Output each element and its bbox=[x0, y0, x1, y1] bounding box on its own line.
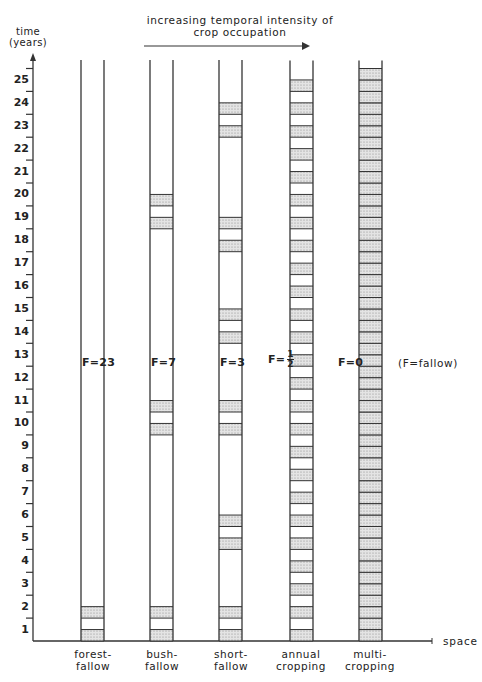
cultivated-band bbox=[359, 149, 382, 160]
cultivated-band bbox=[359, 286, 382, 297]
fallow-legend-note: (F=fallow) bbox=[398, 357, 458, 369]
cultivated-band bbox=[359, 446, 382, 457]
y-tick-label: 1 bbox=[7, 623, 29, 636]
label-line: fallow bbox=[58, 660, 128, 672]
cultivated-band bbox=[359, 160, 382, 171]
cultivated-band bbox=[290, 126, 313, 137]
y-tick-label: 12 bbox=[7, 371, 29, 384]
cultivated-band bbox=[359, 538, 382, 549]
y-tick-label: 18 bbox=[7, 233, 29, 246]
y-tick-label: 23 bbox=[7, 119, 29, 132]
y-tick-label: 19 bbox=[7, 210, 29, 223]
cultivated-band bbox=[219, 538, 242, 549]
y-tick-label: 2 bbox=[7, 600, 29, 613]
cultivated-band bbox=[150, 607, 173, 618]
cultivated-band bbox=[359, 618, 382, 629]
label-line: fallow bbox=[196, 660, 266, 672]
column-label-forest-fallow: forest-fallow bbox=[58, 648, 128, 672]
y-tick-label: 20 bbox=[7, 187, 29, 200]
column-label-multi-cropping: multi-cropping bbox=[335, 648, 405, 672]
cultivated-band bbox=[290, 584, 313, 595]
fallow-label-annual-prefix: F= bbox=[268, 353, 285, 366]
fallow-label-multi: F=0 bbox=[338, 356, 363, 369]
cultivated-band bbox=[290, 149, 313, 160]
cultivated-band bbox=[150, 194, 173, 205]
cultivated-band bbox=[150, 423, 173, 434]
cultivated-band bbox=[290, 172, 313, 183]
x-axis-label: space bbox=[443, 635, 478, 647]
cultivated-band bbox=[290, 515, 313, 526]
y-tick-label: 8 bbox=[7, 462, 29, 475]
cultivated-band bbox=[359, 630, 382, 641]
cultivated-band bbox=[290, 401, 313, 412]
y-tick-label: 22 bbox=[7, 142, 29, 155]
column-label-bush-fallow: bush-fallow bbox=[127, 648, 197, 672]
cultivated-band bbox=[359, 103, 382, 114]
y-tick-label: 16 bbox=[7, 279, 29, 292]
cultivated-band bbox=[290, 309, 313, 320]
y-axis-arrow-icon bbox=[30, 53, 36, 61]
cultivated-band bbox=[219, 332, 242, 343]
cultivated-band bbox=[219, 240, 242, 251]
cultivated-band bbox=[290, 80, 313, 91]
cultivated-band bbox=[359, 275, 382, 286]
cultivated-band bbox=[290, 469, 313, 480]
cultivated-band bbox=[150, 217, 173, 228]
cultivated-band bbox=[359, 91, 382, 102]
fallow-label-short: F=3 bbox=[220, 356, 245, 369]
cultivated-band bbox=[359, 458, 382, 469]
cultivated-band bbox=[359, 183, 382, 194]
cultivated-band bbox=[290, 217, 313, 228]
cultivated-band bbox=[359, 423, 382, 434]
cultivated-band bbox=[359, 378, 382, 389]
cultivated-band bbox=[359, 515, 382, 526]
cultivated-band bbox=[359, 572, 382, 583]
fraction-half: 12 bbox=[287, 350, 294, 369]
cultivated-band bbox=[359, 481, 382, 492]
cultivated-band bbox=[290, 378, 313, 389]
cultivated-band bbox=[290, 492, 313, 503]
cultivated-band bbox=[359, 126, 382, 137]
cultivated-band bbox=[219, 401, 242, 412]
cultivated-band bbox=[219, 515, 242, 526]
column-label-short-fallow: short-fallow bbox=[196, 648, 266, 672]
label-line: forest- bbox=[58, 648, 128, 660]
cultivated-band bbox=[290, 332, 313, 343]
y-tick-label: 13 bbox=[7, 348, 29, 361]
cultivated-band bbox=[359, 80, 382, 91]
cultivated-band bbox=[359, 229, 382, 240]
cultivated-band bbox=[359, 527, 382, 538]
cultivated-band bbox=[359, 504, 382, 515]
cultivated-band bbox=[359, 469, 382, 480]
cultivated-band bbox=[219, 126, 242, 137]
cultivated-band bbox=[290, 630, 313, 641]
fallow-label-annual: F=12 bbox=[268, 350, 294, 369]
cultivated-band bbox=[290, 538, 313, 549]
cultivated-band bbox=[359, 172, 382, 183]
cultivated-band bbox=[290, 423, 313, 434]
cultivated-band bbox=[359, 492, 382, 503]
y-tick-label: 15 bbox=[7, 302, 29, 315]
cultivated-band bbox=[359, 607, 382, 618]
cultivated-band bbox=[359, 309, 382, 320]
cultivated-band bbox=[150, 630, 173, 641]
y-tick-label: 10 bbox=[7, 416, 29, 429]
label-line: bush- bbox=[127, 648, 197, 660]
cultivated-band bbox=[359, 217, 382, 228]
cultivated-band bbox=[290, 286, 313, 297]
y-tick-label: 3 bbox=[7, 577, 29, 590]
cultivated-band bbox=[359, 194, 382, 205]
label-line: cropping bbox=[335, 660, 405, 672]
cultivated-band bbox=[359, 332, 382, 343]
label-line: cropping bbox=[266, 660, 336, 672]
column-label-annual-cropping: annualcropping bbox=[266, 648, 336, 672]
cultivated-band bbox=[219, 309, 242, 320]
cultivated-band bbox=[219, 103, 242, 114]
cultivated-band bbox=[290, 103, 313, 114]
cultivated-band bbox=[219, 423, 242, 434]
label-line: annual bbox=[266, 648, 336, 660]
cultivated-band bbox=[219, 607, 242, 618]
cultivated-band bbox=[359, 343, 382, 354]
cultivated-band bbox=[150, 401, 173, 412]
cultivated-band bbox=[290, 561, 313, 572]
